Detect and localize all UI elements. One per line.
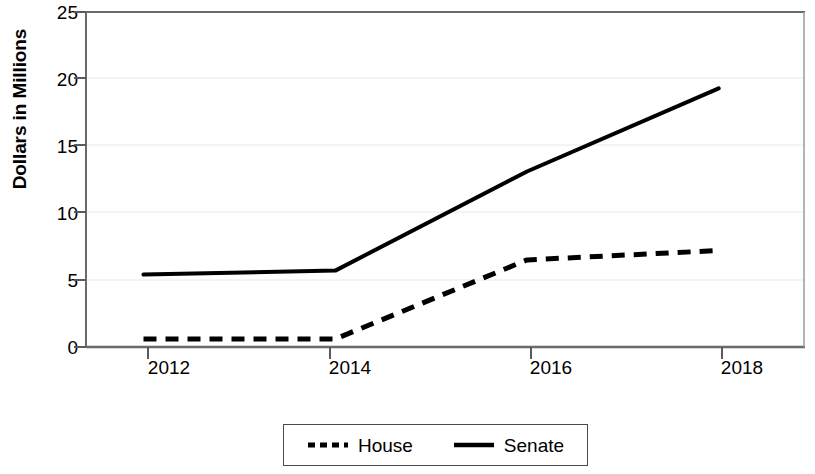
legend-entry-senate: Senate bbox=[453, 436, 564, 455]
y-axis-ticks bbox=[74, 12, 86, 347]
legend-entry-house: House bbox=[307, 436, 413, 455]
chart-legend: House Senate bbox=[283, 424, 588, 466]
legend-label-senate: Senate bbox=[504, 436, 564, 455]
series-line-senate bbox=[144, 88, 719, 274]
legend-swatch-dashed-icon bbox=[307, 440, 349, 450]
legend-swatch-solid-icon bbox=[453, 440, 495, 450]
legend-label-house: House bbox=[358, 436, 413, 455]
gridlines bbox=[86, 78, 805, 280]
plot-area bbox=[0, 0, 815, 400]
series-line-house bbox=[144, 251, 719, 340]
plot-frame bbox=[86, 12, 805, 347]
x-axis-ticks bbox=[148, 347, 722, 359]
line-chart-figure: Dollars in Millions 25 20 15 10 5 0 2012… bbox=[0, 0, 815, 474]
